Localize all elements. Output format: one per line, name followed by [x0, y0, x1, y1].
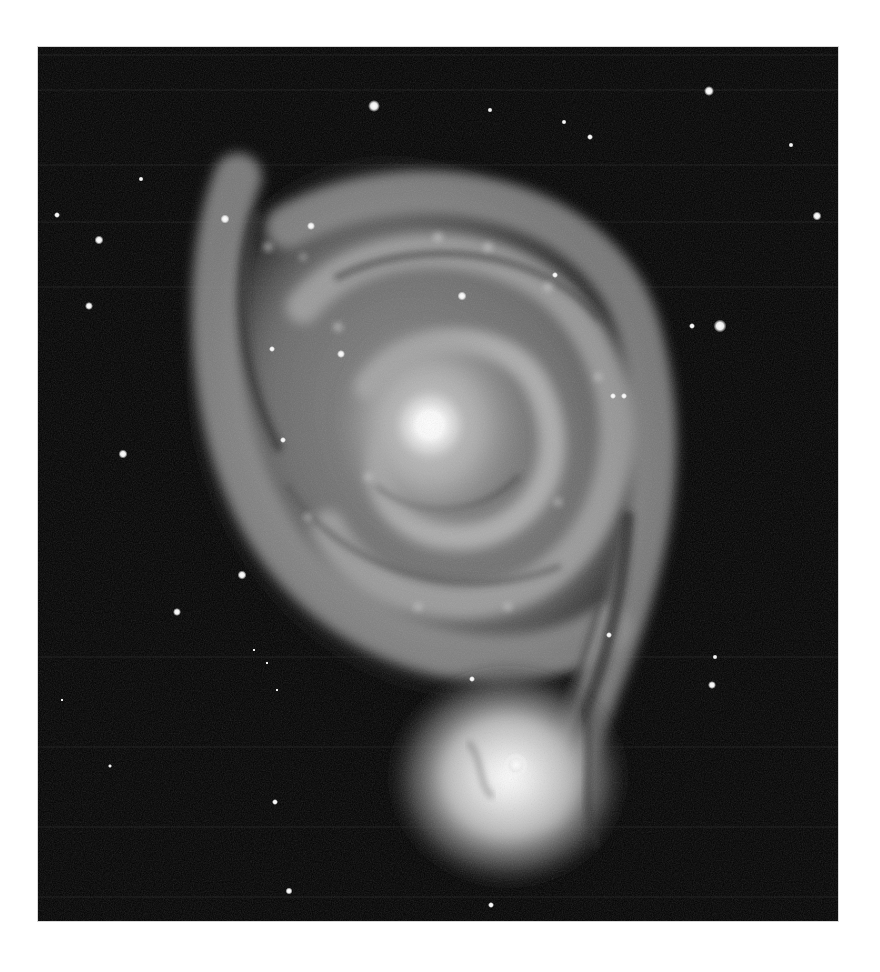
galaxy-image	[38, 47, 838, 921]
page: Whirlpool Galaxy (M51) with companion ga…	[0, 0, 880, 972]
galaxy-photograph: Whirlpool Galaxy (M51) with companion ga…	[38, 47, 838, 921]
